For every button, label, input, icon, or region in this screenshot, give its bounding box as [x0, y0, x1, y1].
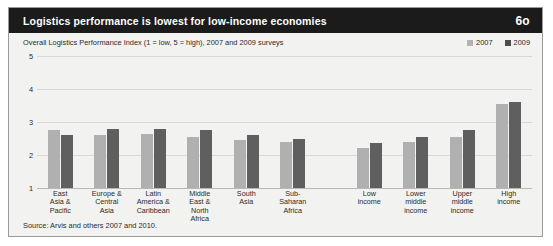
bar-cluster-regions	[37, 56, 316, 188]
bar-2009	[154, 129, 166, 188]
bar-2009	[509, 102, 521, 188]
figure-number: 6o	[515, 14, 530, 28]
y-axis-tick-1: 1	[29, 184, 33, 193]
legend-swatch-2009	[505, 40, 511, 46]
bar-2007	[141, 134, 153, 188]
bar-group	[84, 56, 131, 188]
bar-2009	[463, 130, 475, 188]
legend-item-2009: 2009	[505, 38, 530, 47]
cluster-separator	[316, 56, 346, 188]
bar-2007	[48, 130, 60, 188]
x-axis-label: South Asia	[223, 190, 270, 207]
source-note: Source: Arvis and others 2007 and 2010.	[23, 221, 157, 230]
bar-2009	[370, 143, 382, 188]
legend-item-2007: 2007	[467, 38, 492, 47]
bar-group	[37, 56, 84, 188]
y-axis-tick-3: 3	[29, 118, 33, 127]
figure-title: Logistics performance is lowest for low-…	[23, 15, 327, 27]
bar-2009	[200, 130, 212, 188]
bars-layer	[37, 56, 532, 188]
y-axis: 12345	[23, 56, 37, 188]
bar-2007	[94, 135, 106, 188]
bar-2007	[234, 140, 246, 188]
bar-group	[270, 56, 317, 188]
bar-2009	[247, 135, 259, 188]
chart-legend: 2007 2009	[467, 38, 530, 47]
cluster-separator-labels	[316, 190, 346, 226]
x-axis-label: Sub- Saharan Africa	[270, 190, 317, 215]
bar-2009	[416, 137, 428, 188]
chart-subtitle: Overall Logistics Performance Index (1 =…	[23, 38, 283, 47]
y-axis-tick-2: 2	[29, 151, 33, 160]
plot-area: 12345	[23, 56, 532, 188]
bar-2007	[496, 104, 508, 188]
bar-2009	[107, 129, 119, 188]
bar-2007	[403, 142, 415, 188]
bar-2007	[280, 142, 292, 188]
grid-area	[37, 56, 532, 188]
cat-cluster-regions: East Asia & PacificEurope & Central Asia…	[37, 190, 316, 223]
x-axis-label: Middle East & North Africa	[177, 190, 224, 223]
x-axis-label: High income	[486, 190, 533, 207]
legend-swatch-2007	[467, 40, 473, 46]
y-axis-tick-4: 4	[29, 85, 33, 94]
x-axis-label: Upper middle income	[439, 190, 486, 215]
legend-label-2009: 2009	[514, 38, 530, 47]
x-axis-label: Latin America & Caribbean	[130, 190, 177, 215]
cat-cluster-income: Low incomeLower middle incomeUpper middl…	[346, 190, 532, 215]
subtitle-and-legend: Overall Logistics Performance Index (1 =…	[9, 33, 542, 52]
bar-group	[346, 56, 393, 188]
x-axis-label: East Asia & Pacific	[37, 190, 84, 215]
bar-2007	[357, 148, 369, 188]
bar-group	[393, 56, 440, 188]
y-axis-tick-5: 5	[29, 52, 33, 61]
figure-panel: Logistics performance is lowest for low-…	[8, 7, 543, 237]
bar-2009	[293, 139, 305, 189]
x-axis-label: Europe & Central Asia	[84, 190, 131, 215]
bar-group	[486, 56, 533, 188]
bar-group	[130, 56, 177, 188]
bar-cluster-income	[346, 56, 532, 188]
figure-header: Logistics performance is lowest for low-…	[9, 8, 542, 33]
x-axis-label: Low income	[346, 190, 393, 207]
bar-2007	[450, 137, 462, 188]
bar-group	[177, 56, 224, 188]
bar-group	[223, 56, 270, 188]
bar-2007	[187, 137, 199, 188]
bar-2009	[61, 135, 73, 188]
x-axis-label: Lower middle income	[393, 190, 440, 215]
legend-label-2007: 2007	[476, 38, 492, 47]
bar-group	[439, 56, 486, 188]
